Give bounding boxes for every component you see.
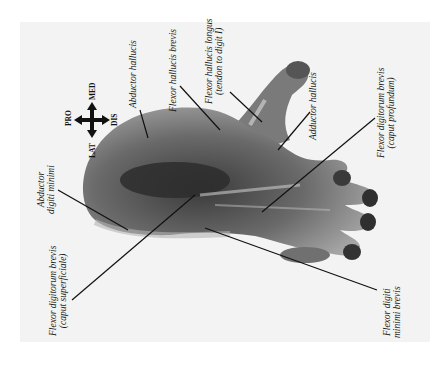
label-flexor-hallucis-brevis: Flexor hallucis brevis (168, 29, 178, 112)
label-abductor-digiti-minimi: Abductor digiti minimi (36, 165, 56, 214)
label-flexor-digitorum-brevis-superficiale: Flexor digitorum brevis (caput superfici… (48, 246, 68, 336)
label-flexor-digiti-minimi-brevis: Flexor digiti minimi brevis (382, 286, 402, 338)
orientation-indicator: PRO DIS LAT MED (64, 92, 120, 148)
orient-down-label: DIS (110, 113, 119, 126)
orient-right-label: MED (88, 83, 97, 101)
label-flexor-hallucis-longus: Flexor hallucis longus (tendon to digit … (204, 19, 224, 105)
label-abductor-hallucis: Abductor hallucis (128, 40, 138, 108)
orient-left-label: LAT (88, 143, 97, 158)
label-flexor-digitorum-brevis-profundum: Flexor digitorum brevis (caput profundum… (376, 68, 396, 158)
label-adductor-hallucis: Adductor hallucis (308, 72, 318, 140)
orient-up-label: PRO (64, 110, 73, 126)
